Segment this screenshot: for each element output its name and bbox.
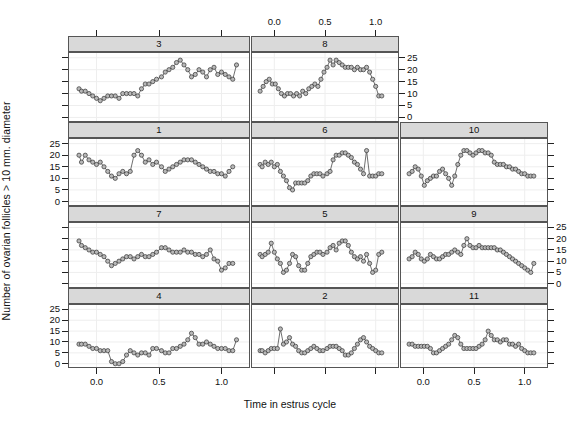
left-y-tick <box>62 227 68 228</box>
left-y-tick-label: 15 <box>49 325 60 336</box>
right-y-tick <box>399 81 405 82</box>
right-y-tick <box>548 331 554 332</box>
strip-header-10: 10 <box>400 122 548 138</box>
bottom-x-tick <box>96 368 97 374</box>
strip-header-3: 3 <box>68 36 250 52</box>
strip-label: 5 <box>322 209 327 219</box>
left-y-tick <box>62 352 68 353</box>
strip-label: 1 <box>156 125 161 135</box>
left-y-tick <box>62 331 68 332</box>
panel-8 <box>251 52 399 122</box>
panel-2 <box>251 304 399 368</box>
right-y-tick-label: 10 <box>407 88 418 99</box>
strip-header-5: 5 <box>251 206 399 222</box>
left-y-tick <box>62 283 68 284</box>
right-y-tick <box>399 57 405 58</box>
strip-label: 6 <box>322 125 327 135</box>
right-y-tick <box>548 201 554 202</box>
right-y-tick-label: 15 <box>407 76 418 87</box>
right-y-tick-label: 0 <box>407 111 412 122</box>
bottom-x-tick <box>274 368 275 374</box>
left-y-tick <box>62 249 68 250</box>
panel-series-3 <box>69 53 249 121</box>
strip-label: 2 <box>322 291 327 301</box>
left-y-tick <box>62 238 68 239</box>
left-y-tick-label: 5 <box>55 347 60 358</box>
left-y-tick-label: 10 <box>49 172 60 183</box>
strip-header-6: 6 <box>251 122 399 138</box>
bottom-x-tick <box>524 368 525 374</box>
right-y-tick-label: 5 <box>407 99 412 110</box>
left-y-tick-label: 0 <box>55 196 60 207</box>
strip-header-7: 7 <box>68 206 250 222</box>
left-y-tick-label: 25 <box>49 303 60 314</box>
panel-5 <box>251 222 399 288</box>
strip-header-9: 9 <box>400 206 548 222</box>
panel-6 <box>251 138 399 206</box>
right-y-tick-label: 20 <box>407 64 418 75</box>
right-y-tick <box>399 117 405 118</box>
panel-series-7 <box>69 223 249 287</box>
left-y-tick-label: 5 <box>55 184 60 195</box>
left-y-tick <box>62 57 68 58</box>
panel-series-11 <box>401 305 547 367</box>
y-axis-title: Number of ovarian follicles > 10 mm. dia… <box>0 0 18 422</box>
left-y-tick <box>62 320 68 321</box>
right-y-tick <box>548 261 554 262</box>
bottom-x-tick <box>221 368 222 374</box>
strip-label: 9 <box>471 209 476 219</box>
strip-label: 7 <box>156 209 161 219</box>
right-y-tick-label: 20 <box>556 233 567 244</box>
right-y-tick <box>399 69 405 70</box>
right-y-tick-label: 25 <box>556 221 567 232</box>
right-y-tick-label: 5 <box>556 266 561 277</box>
left-y-tick <box>62 341 68 342</box>
left-y-tick <box>62 81 68 82</box>
right-y-tick <box>548 227 554 228</box>
right-y-tick <box>548 143 554 144</box>
left-y-tick-label: 0 <box>55 358 60 369</box>
bottom-x-tick-label: 0.0 <box>90 376 103 387</box>
bottom-x-tick <box>474 368 475 374</box>
top-x-tick-label: 0.0 <box>268 16 281 27</box>
strip-header-1: 1 <box>68 122 250 138</box>
panel-series-1 <box>69 139 249 205</box>
panel-series-4 <box>69 305 249 367</box>
right-y-tick <box>548 166 554 167</box>
right-y-tick <box>548 320 554 321</box>
bottom-x-tick <box>423 368 424 374</box>
panel-series-6 <box>252 139 398 205</box>
right-y-tick <box>548 352 554 353</box>
bottom-x-tick <box>375 368 376 374</box>
right-y-tick <box>548 341 554 342</box>
left-y-tick <box>62 272 68 273</box>
bottom-x-tick-label: 1.0 <box>215 376 228 387</box>
bottom-x-tick-label: 0.5 <box>152 376 165 387</box>
top-x-tick <box>375 30 376 36</box>
panel-4 <box>68 304 250 368</box>
panel-11 <box>400 304 548 368</box>
left-y-tick-label: 10 <box>49 336 60 347</box>
strip-header-4: 4 <box>68 288 250 304</box>
left-y-tick <box>62 178 68 179</box>
strip-label: 3 <box>156 39 161 49</box>
strip-header-8: 8 <box>251 36 399 52</box>
panel-10 <box>400 138 548 206</box>
left-y-tick <box>62 143 68 144</box>
right-y-tick <box>548 272 554 273</box>
panel-series-8 <box>252 53 398 121</box>
left-y-tick <box>62 166 68 167</box>
panel-series-2 <box>252 305 398 367</box>
lattice-plot: Number of ovarian follicles > 10 mm. dia… <box>0 0 582 422</box>
right-y-tick-label: 0 <box>556 278 561 289</box>
strip-header-2: 2 <box>251 288 399 304</box>
panel-7 <box>68 222 250 288</box>
right-y-tick-label: 10 <box>556 255 567 266</box>
strip-label: 10 <box>469 125 480 135</box>
right-y-tick <box>548 189 554 190</box>
bottom-x-tick <box>159 368 160 374</box>
left-y-tick <box>62 155 68 156</box>
strip-label: 8 <box>322 39 327 49</box>
right-y-tick <box>548 363 554 364</box>
x-axis-title: Time in estrus cycle <box>60 398 520 410</box>
